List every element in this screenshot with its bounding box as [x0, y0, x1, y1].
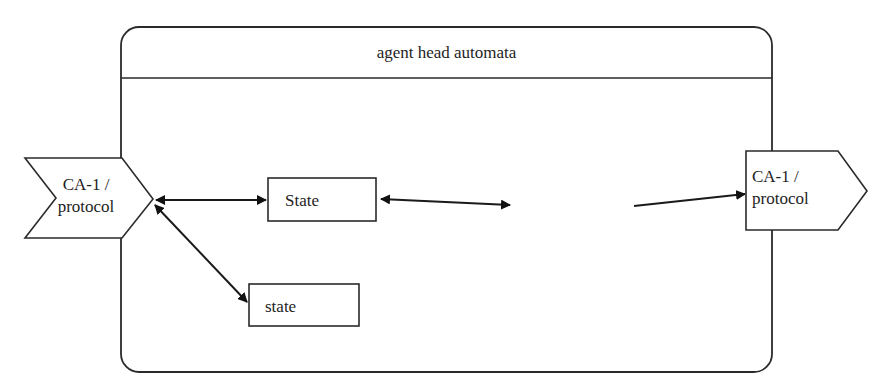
left-port-label: CA-1 / protocol	[46, 174, 126, 218]
right-port-label-line2: protocol	[752, 188, 832, 210]
state-upper-label: State	[285, 191, 319, 211]
right-port-label: CA-1 / protocol	[752, 166, 832, 210]
automata-title: agent head automata	[121, 43, 772, 63]
arrow-blank-to-right-port	[634, 194, 745, 206]
arrow-port-to-state-lower	[155, 205, 247, 302]
right-port-label-line1: CA-1 /	[752, 166, 832, 188]
left-port-label-line1: CA-1 /	[46, 174, 126, 196]
left-port-label-line2: protocol	[46, 196, 126, 218]
state-lower-label: state	[265, 297, 296, 317]
arrow-state-upper-to-blank	[381, 199, 510, 205]
